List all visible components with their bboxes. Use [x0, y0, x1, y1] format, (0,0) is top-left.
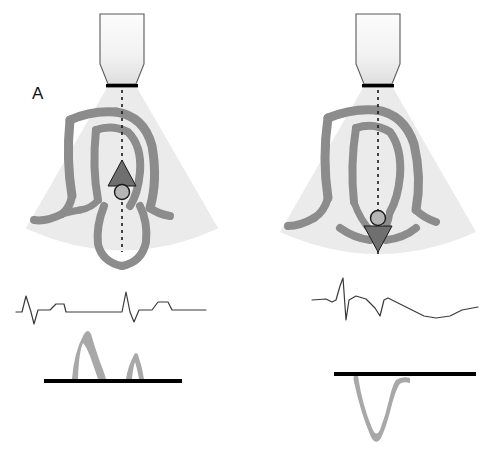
doppler-lvot-wave — [354, 376, 411, 442]
ecg-trace — [16, 292, 206, 324]
ultrasound-transducer-probe[interactable] — [356, 14, 400, 87]
doppler-sample-volume-gate[interactable] — [115, 185, 130, 200]
doppler-baseline — [44, 379, 182, 383]
panel-a: A — [0, 0, 244, 468]
ecg-trace — [312, 278, 478, 320]
doppler-spectral-waveform — [354, 376, 411, 442]
transducer-face — [106, 84, 138, 87]
transducer-body — [100, 14, 144, 84]
doppler-e-wave — [72, 331, 106, 379]
doppler-a-wave — [126, 353, 144, 379]
panel-label-a: A — [32, 84, 44, 104]
panel-a-graphics — [0, 0, 244, 468]
transducer-body — [356, 14, 400, 84]
panel-b: B — [244, 0, 488, 468]
ultrasound-transducer-probe[interactable] — [100, 14, 144, 87]
doppler-spectral-waveform — [72, 331, 144, 379]
doppler-baseline — [334, 372, 476, 376]
panel-b-graphics — [244, 0, 488, 468]
echocardiography-figure: A — [0, 0, 488, 468]
transducer-face — [362, 84, 394, 87]
figure-caption — [8, 457, 208, 466]
doppler-sample-volume-gate[interactable] — [371, 211, 386, 226]
